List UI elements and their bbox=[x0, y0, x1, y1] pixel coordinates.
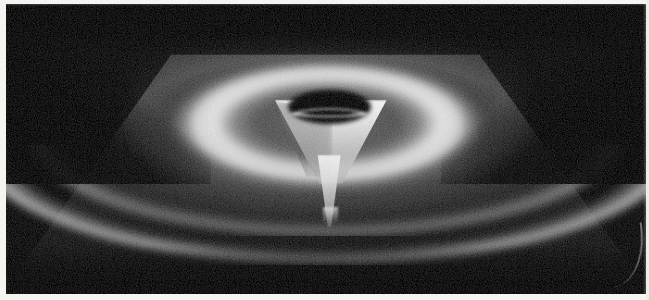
page-margin-bottom bbox=[0, 294, 649, 300]
ground-plane-surface bbox=[6, 4, 646, 294]
photographic-plate bbox=[6, 4, 646, 294]
figure-root bbox=[0, 0, 649, 300]
top-falloff bbox=[6, 4, 646, 56]
rendered-scene bbox=[6, 4, 646, 294]
